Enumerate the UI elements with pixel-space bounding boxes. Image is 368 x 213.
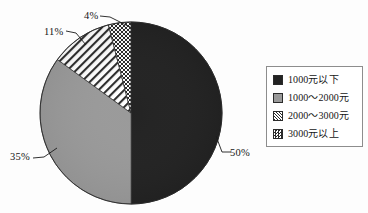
legend-label-3000-above: 3000元以上 [288, 129, 339, 139]
leader-line-4 [100, 16, 130, 27]
legend-item-3000-above: 3000元以上 [273, 126, 362, 142]
chart-canvas: 4% 11% 35% 50% 1000元以下 1000～2000元 2000～3… [0, 0, 368, 213]
legend-item-2000-3000: 2000～3000元 [273, 108, 362, 124]
checkerboard-swatch-icon [273, 129, 283, 139]
legend-label-1000-below: 1000元以下 [288, 75, 339, 85]
legend-label-1000-2000: 1000～2000元 [288, 93, 349, 103]
leader-line-50 [216, 136, 231, 152]
leader-line-11 [66, 31, 86, 45]
solid-dark-swatch-icon [273, 75, 283, 85]
pie-label-1000-below: 50% [230, 148, 250, 159]
legend-label-2000-3000: 2000～3000元 [288, 111, 349, 121]
pie-label-2000-3000: 11% [44, 27, 63, 38]
legend-item-1000-below: 1000元以下 [273, 72, 362, 88]
pie-label-1000-2000: 35% [10, 152, 30, 163]
leader-line-35 [33, 148, 57, 158]
legend-item-1000-2000: 1000～2000元 [273, 90, 362, 106]
pie-label-3000-above: 4% [84, 11, 98, 22]
solid-gray-swatch-icon [273, 93, 283, 103]
legend: 1000元以下 1000～2000元 2000～3000元 3000元以上 [266, 66, 363, 147]
diagonal-hatch-swatch-icon [273, 111, 283, 121]
